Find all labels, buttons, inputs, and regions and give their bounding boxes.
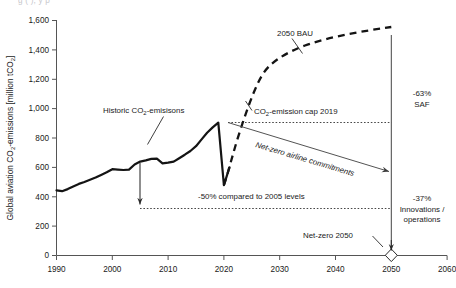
- y-tick-label-800: 800: [35, 134, 49, 143]
- net-zero-2050-label: Net-zero 2050: [303, 231, 354, 240]
- x-tick-label-2050: 2050: [382, 265, 401, 274]
- y-tick-labels: 1,600 1,400 1,200 1,000 800 600 400 200 …: [29, 16, 50, 260]
- net-zero-2050-diamond-marker: [385, 249, 397, 262]
- innovations-share-sublabel-1: Innovations /: [400, 205, 446, 214]
- bau-label: 2050 BAU: [277, 29, 313, 38]
- cap-2019-label: CO2-emission cap 2019: [254, 107, 338, 117]
- cap-2019-label-part-1: CO: [254, 107, 266, 116]
- x-tick-label-2030: 2030: [271, 265, 290, 274]
- historic-emissions-line: [57, 123, 230, 192]
- saf-share-label: -63%: [413, 89, 431, 98]
- y-axis-title-part-2: -emissions [million tCO: [5, 61, 15, 147]
- historic-label-leader: [148, 117, 164, 145]
- historic-emissions-label-part-1: Historic CO: [103, 106, 143, 115]
- x-tick-label-1990: 1990: [47, 265, 66, 274]
- cap-2019-label-part-2: -emission cap 2019: [269, 107, 338, 116]
- historic-emissions-label-part-2: -emisisons: [147, 106, 185, 115]
- innovations-share-sublabel-2: operations: [404, 215, 441, 224]
- saf-share-sublabel: SAF: [414, 100, 430, 109]
- minus-50-percent-label: -50% compared to 2005 levels: [198, 192, 305, 201]
- y-tick-label-1400: 1,400: [29, 46, 50, 55]
- x-tick-label-2040: 2040: [326, 265, 345, 274]
- y-tick-label-1000: 1,000: [29, 104, 50, 113]
- x-tick-label-2060: 2060: [438, 265, 456, 274]
- innovations-share-label: -37%: [413, 194, 431, 203]
- net-zero-2050-label-leader: [373, 236, 384, 247]
- y-tick-label-1200: 1,200: [29, 75, 50, 84]
- y-axis: [52, 20, 57, 256]
- x-tick-labels: 1990 2000 2010 2020 2030 2040 2050 2060: [47, 265, 456, 274]
- y-tick-label-400: 400: [35, 193, 49, 202]
- y-tick-label-200: 200: [35, 222, 49, 231]
- emissions-chart: 1,600 1,400 1,200 1,000 800 600 400 200 …: [0, 0, 456, 288]
- y-axis-title: Global aviation CO2-emissions [million t…: [5, 56, 16, 221]
- x-tick-label-2020: 2020: [215, 265, 234, 274]
- y-axis-title-part-1: Global aviation CO: [5, 150, 15, 221]
- y-tick-label-1600: 1,600: [29, 16, 50, 25]
- x-tick-label-2010: 2010: [159, 265, 178, 274]
- chart-figure: g ( ), y p: [0, 0, 456, 288]
- y-axis-title-part-3: ]: [5, 56, 15, 58]
- y-tick-label-600: 600: [35, 163, 49, 172]
- y-tick-label-0: 0: [44, 251, 49, 260]
- historic-emissions-label: Historic CO2-emisisons: [103, 106, 184, 116]
- x-tick-label-2000: 2000: [103, 265, 122, 274]
